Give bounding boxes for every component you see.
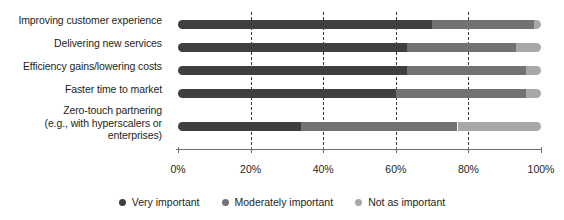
x-axis-tick-20: [251, 147, 252, 153]
legend-item[interactable]: Moderately important: [222, 196, 334, 209]
legend-swatch-dot-icon: [119, 199, 126, 206]
x-axis-line: [176, 149, 541, 150]
category-label-line: Faster time to market: [0, 83, 162, 96]
bar-segment: [178, 66, 407, 75]
x-tick-label-20: 20%: [240, 163, 261, 176]
category-label-line: Delivering new services: [0, 37, 162, 50]
legend-swatch-dot-icon: [355, 199, 362, 206]
x-tick-label-0: 0%: [170, 163, 185, 176]
bar-segment: [396, 89, 527, 98]
bar-segment: [534, 20, 541, 29]
bar-segment: [516, 43, 541, 52]
bar-segment: [432, 20, 534, 29]
category-label: Improving customer experience: [0, 14, 162, 27]
stacked-bar: [178, 122, 541, 131]
bar-segment: [178, 122, 301, 131]
plot-area: [178, 12, 541, 160]
bar-segment: [526, 66, 541, 75]
bar-row: [178, 122, 541, 131]
bar-segment: [178, 43, 407, 52]
x-axis-tick-labels: 0%20%40%60%80%100%: [178, 163, 541, 179]
x-axis-tick-60: [396, 147, 397, 153]
bar-row: [178, 66, 541, 75]
x-axis-tick-0: [178, 147, 179, 153]
x-axis-tick-100: [541, 147, 542, 153]
legend-item[interactable]: Very important: [119, 196, 200, 209]
x-tick-label-40: 40%: [313, 163, 334, 176]
bar-segment: [526, 89, 541, 98]
category-label: Delivering new services: [0, 37, 162, 50]
bar-segment: [458, 122, 541, 131]
bar-row: [178, 89, 541, 98]
bar-segment: [178, 20, 432, 29]
legend-label: Moderately important: [235, 196, 334, 209]
stacked-bar: [178, 43, 541, 52]
category-label: Efficiency gains/lowering costs: [0, 60, 162, 73]
category-label-line: Zero-touch partnering: [0, 104, 162, 117]
stacked-bar: [178, 20, 541, 29]
bar-segment: [301, 122, 457, 131]
stacked-bar: [178, 89, 541, 98]
category-label-line: Efficiency gains/lowering costs: [0, 60, 162, 73]
category-label-line: enterprises): [0, 129, 162, 142]
legend-swatch-dot-icon: [222, 199, 229, 206]
category-label: Zero-touch partnering(e.g., with hypersc…: [0, 104, 162, 142]
bar-row: [178, 43, 541, 52]
legend-item[interactable]: Not as important: [355, 196, 445, 209]
legend-label: Not as important: [368, 196, 445, 209]
bar-row: [178, 20, 541, 29]
x-axis-tick-40: [323, 147, 324, 153]
bar-segment: [407, 66, 527, 75]
chart-legend: Very importantModerately importantNot as…: [0, 196, 564, 209]
category-label-line: Improving customer experience: [0, 14, 162, 27]
bar-segment: [407, 43, 516, 52]
stacked-bar: [178, 66, 541, 75]
x-tick-label-60: 60%: [385, 163, 406, 176]
category-label-line: (e.g., with hyperscalers or: [0, 117, 162, 130]
x-axis-tick-80: [468, 147, 469, 153]
bar-segment: [178, 89, 396, 98]
x-tick-label-80: 80%: [458, 163, 479, 176]
x-tick-label-100: 100%: [528, 163, 555, 176]
category-label: Faster time to market: [0, 83, 162, 96]
stacked-bar-chart: Improving customer experienceDelivering …: [0, 0, 564, 220]
category-axis-labels: Improving customer experienceDelivering …: [0, 12, 170, 160]
legend-label: Very important: [132, 196, 200, 209]
